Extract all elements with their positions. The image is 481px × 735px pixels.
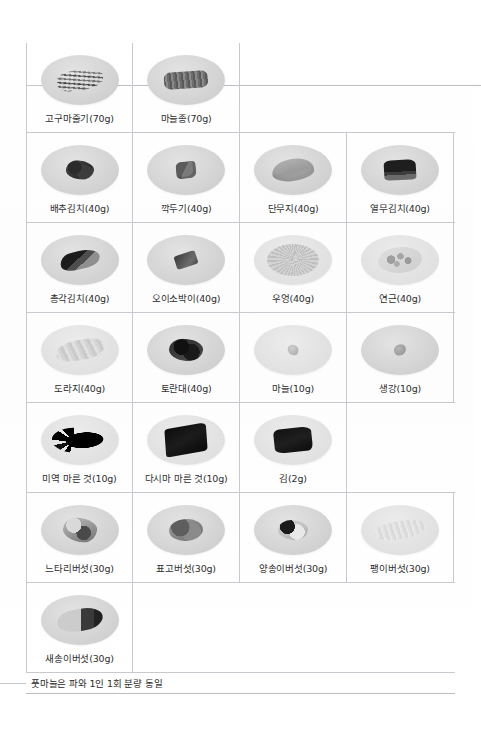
plate-illustration — [250, 142, 336, 198]
food-label: 마늘(10g) — [272, 383, 314, 395]
food-cell[interactable]: 새송이버섯(30g) — [26, 583, 133, 672]
plate-illustration — [37, 52, 123, 108]
plate-illustration — [37, 322, 123, 378]
plate-illustration — [357, 142, 443, 198]
food-label: 양송이버섯(30g) — [259, 563, 328, 575]
food-cell[interactable]: 깍두기(40g) — [133, 133, 240, 222]
plate-illustration — [250, 412, 336, 468]
table-row: 총각김치(40g)오이소박이(40g)우엉(40g)연근(40g) — [26, 223, 455, 313]
plate-illustration — [357, 322, 443, 378]
food-cell[interactable]: 도라지(40g) — [26, 313, 133, 402]
food-cell[interactable]: 팽이버섯(30g) — [347, 493, 454, 582]
empty-cell — [347, 583, 454, 672]
young-radish-kimchi-icon — [383, 159, 416, 181]
food-label: 고구마줄기(70g) — [45, 113, 114, 125]
food-label: 우엉(40g) — [272, 293, 314, 305]
food-cell[interactable]: 토란대(40g) — [133, 313, 240, 402]
empty-cell — [347, 403, 454, 492]
table-row: 새송이버섯(30g) — [26, 583, 455, 673]
food-cell[interactable]: 단무지(40g) — [240, 133, 347, 222]
food-label: 생강(10g) — [379, 383, 421, 395]
table-row: 배추김치(40g)깍두기(40g)단무지(40g)열무김치(40g) — [26, 133, 455, 223]
food-cell[interactable]: 열무김치(40g) — [347, 133, 454, 222]
food-cell[interactable]: 표고버섯(30g) — [133, 493, 240, 582]
food-label: 도라지(40g) — [54, 383, 105, 395]
plate-illustration — [250, 322, 336, 378]
footnote-rule-left-stub — [0, 683, 26, 684]
food-label: 오이소박이(40g) — [152, 293, 221, 305]
food-label: 단무지(40g) — [268, 203, 319, 215]
food-cell[interactable]: 김(2g) — [240, 403, 347, 492]
plate-illustration — [357, 232, 443, 288]
food-label: 새송이버섯(30g) — [45, 653, 114, 665]
food-cell[interactable]: 연근(40g) — [347, 223, 454, 312]
table-body: 고구마줄기(70g)마늘종(70g)배추김치(40g)깍두기(40g)단무지(4… — [26, 43, 455, 673]
food-label: 깍두기(40g) — [161, 203, 212, 215]
table-row: 고구마줄기(70g)마늘종(70g) — [26, 43, 455, 133]
food-label: 미역 마른 것(10g) — [42, 473, 116, 485]
food-label: 팽이버섯(30g) — [370, 563, 430, 575]
empty-cell — [240, 43, 347, 132]
plate-illustration — [37, 412, 123, 468]
empty-cell — [133, 583, 240, 672]
food-cell[interactable]: 우엉(40g) — [240, 223, 347, 312]
table-footnote-text: 풋마늘은 파와 1인 1회 분량 동일 — [26, 676, 162, 690]
table-row: 느타리버섯(30g)표고버섯(30g)양송이버섯(30g)팽이버섯(30g) — [26, 493, 455, 583]
plate-illustration — [250, 502, 336, 558]
plate-illustration — [37, 592, 123, 648]
food-label: 김(2g) — [279, 473, 307, 485]
food-label: 마늘종(70g) — [161, 113, 212, 125]
plate-illustration — [357, 502, 443, 558]
plate-illustration — [143, 322, 229, 378]
food-cell[interactable]: 오이소박이(40g) — [133, 223, 240, 312]
food-label: 열무김치(40g) — [370, 203, 430, 215]
food-label: 다시마 마른 것(10g) — [145, 473, 228, 485]
food-cell[interactable]: 느타리버섯(30g) — [26, 493, 133, 582]
plate-illustration — [143, 142, 229, 198]
food-cell[interactable]: 양송이버섯(30g) — [240, 493, 347, 582]
plate-illustration — [37, 142, 123, 198]
empty-cell — [347, 43, 454, 132]
food-label: 연근(40g) — [379, 293, 421, 305]
food-label: 총각김치(40g) — [50, 293, 110, 305]
food-cell[interactable]: 미역 마른 것(10g) — [26, 403, 133, 492]
table-footnote-row: 풋마늘은 파와 1인 1회 분량 동일 — [26, 673, 455, 694]
food-cell[interactable]: 생강(10g) — [347, 313, 454, 402]
plate-illustration — [37, 232, 123, 288]
food-cell[interactable]: 고구마줄기(70g) — [26, 43, 133, 132]
plate-illustration — [143, 412, 229, 468]
table-row: 도라지(40g)토란대(40g)마늘(10g)생강(10g) — [26, 313, 455, 403]
empty-cell — [240, 583, 347, 672]
food-cell[interactable]: 마늘종(70g) — [133, 43, 240, 132]
food-portion-table: 고구마줄기(70g)마늘종(70g)배추김치(40g)깍두기(40g)단무지(4… — [26, 43, 455, 694]
plate-illustration — [143, 232, 229, 288]
food-cell[interactable]: 다시마 마른 것(10g) — [133, 403, 240, 492]
food-cell[interactable]: 마늘(10g) — [240, 313, 347, 402]
plate-illustration — [143, 502, 229, 558]
food-label: 토란대(40g) — [161, 383, 212, 395]
food-label: 배추김치(40g) — [50, 203, 110, 215]
food-cell[interactable]: 총각김치(40g) — [26, 223, 133, 312]
plate-illustration — [37, 502, 123, 558]
garlic-scape-icon — [163, 70, 208, 90]
radish-cube-kimchi-icon — [175, 161, 196, 180]
table-row: 미역 마른 것(10g)다시마 마른 것(10g)김(2g) — [26, 403, 455, 493]
food-label: 느타리버섯(30g) — [45, 563, 114, 575]
burdock-root-icon — [267, 244, 319, 276]
food-label: 표고버섯(30g) — [156, 563, 216, 575]
food-cell[interactable]: 배추김치(40g) — [26, 133, 133, 222]
laver-icon — [273, 426, 313, 454]
plate-illustration — [143, 52, 229, 108]
plate-illustration — [250, 232, 336, 288]
